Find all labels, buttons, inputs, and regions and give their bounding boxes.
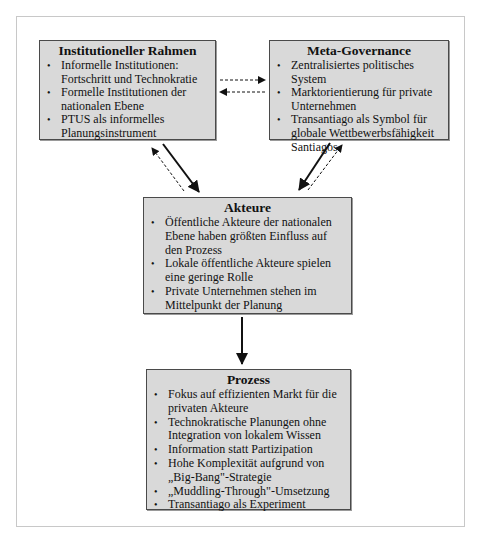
list-item: Private Unternehmen stehen im Mittelpunk… [150, 285, 345, 313]
list-item: Fokus auf effizienten Markt für die priv… [153, 388, 344, 416]
bullet-list: Fokus auf effizienten Markt für die priv… [153, 388, 344, 512]
box-title: Akteure [150, 200, 345, 216]
box-meta-governance: Meta-Governance Zentralisiertes politisc… [269, 40, 449, 140]
bullet-list: Öffentliche Akteure der nationalen Ebene… [150, 216, 345, 313]
list-item: Öffentliche Akteure der nationalen Ebene… [150, 216, 345, 257]
list-item: Hohe Komplexität aufgrund von „Big-Bang"… [153, 457, 344, 485]
list-item: „Muddling-Through"-Umsetzung [153, 485, 344, 499]
box-prozess: Prozess Fokus auf effizienten Markt für … [146, 369, 351, 510]
list-item: Zentralisiertes politisches System [276, 59, 442, 86]
list-item: PTUS als informelles Planungsinstrument [46, 113, 209, 140]
box-akteure: Akteure Öffentliche Akteure der national… [143, 197, 352, 314]
box-institutioneller-rahmen: Institutioneller Rahmen Informelle Insti… [39, 40, 216, 140]
list-item: Information statt Partizipation [153, 443, 344, 457]
list-item: Informelle Institutionen: Fortschritt un… [46, 59, 209, 86]
list-item: Marktorientierung für private Unternehme… [276, 86, 442, 113]
bullet-list: Zentralisiertes politisches System Markt… [276, 59, 442, 154]
box-title: Prozess [153, 372, 344, 388]
list-item: Formelle Institutionen der nationalen Eb… [46, 86, 209, 113]
box-title: Meta-Governance [276, 43, 442, 59]
box-title: Institutioneller Rahmen [46, 43, 209, 59]
list-item: Lokale öffentliche Akteure spielen eine … [150, 257, 345, 285]
list-item: Technokratische Planungen ohne Integrati… [153, 416, 344, 444]
list-item: Transantiago als Experiment [153, 498, 344, 512]
list-item: Transantiago als Symbol für globale Wett… [276, 113, 442, 154]
bullet-list: Informelle Institutionen: Fortschritt un… [46, 59, 209, 141]
